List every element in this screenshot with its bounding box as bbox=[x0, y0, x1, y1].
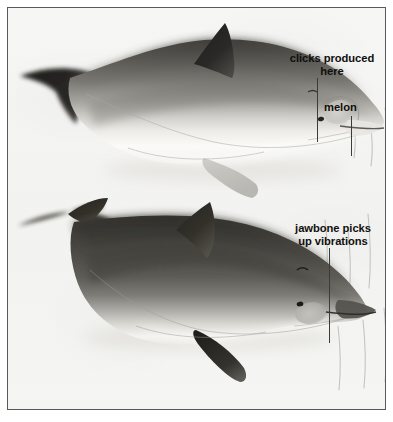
lower-dolphin-rostrum bbox=[335, 300, 376, 319]
sound-wave-lines bbox=[325, 108, 386, 390]
leader-line-jawbone bbox=[329, 248, 330, 343]
label-jawbone-picks-up-vibrations: jawbone picks up vibrations bbox=[274, 222, 386, 247]
label-melon: melon bbox=[324, 101, 380, 114]
leader-line-melon bbox=[351, 116, 352, 156]
leader-line-clicks bbox=[317, 78, 318, 142]
illustration-plate: clicks produced here melon jawbone picks… bbox=[7, 7, 386, 410]
figure-root: clicks produced here melon jawbone picks… bbox=[0, 0, 393, 422]
label-clicks-produced-here: clicks produced here bbox=[276, 52, 386, 77]
